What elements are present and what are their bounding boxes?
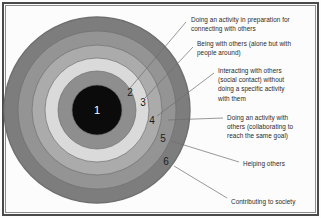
ring-number-3: 3 (140, 98, 146, 108)
callout-label-3: Interacting with others (social contact)… (218, 66, 285, 103)
callout-label-1: Doing an activity in preparation for con… (191, 15, 290, 33)
leader-line-6 (174, 166, 227, 198)
ring-number-6: 6 (163, 157, 169, 167)
ring-number-1: 1 (94, 105, 100, 115)
ring-number-5: 5 (160, 134, 166, 144)
figure-container: 123456 Doing an activity in preparation … (0, 0, 321, 218)
callout-label-6: Contributing to society (231, 197, 295, 206)
callout-label-5: Helping others (243, 159, 285, 168)
leader-line-5 (171, 141, 239, 162)
callout-label-4: Doing an activity with others (collabora… (227, 113, 293, 141)
ring-number-4: 4 (149, 116, 155, 126)
callout-label-2: Being with others (alone but with people… (197, 39, 291, 57)
ring-number-2: 2 (127, 88, 133, 98)
